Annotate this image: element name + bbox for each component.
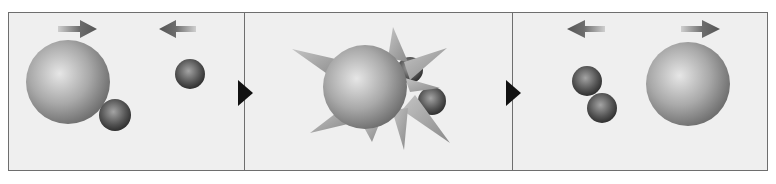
collision-diagram <box>0 0 776 184</box>
small-sphere <box>572 66 602 96</box>
small-sphere <box>175 59 205 89</box>
motion-arrow-right-icon <box>681 20 720 38</box>
panel-after <box>567 20 730 126</box>
panel-collision <box>292 27 450 150</box>
step-arrow-icon <box>506 80 521 106</box>
motion-arrow-left-icon <box>567 20 605 38</box>
motion-arrow-left-icon <box>159 20 196 38</box>
large-sphere <box>646 42 730 126</box>
small-sphere <box>587 93 617 123</box>
motion-arrow-right-icon <box>58 20 97 38</box>
large-sphere <box>323 45 407 129</box>
step-arrow-icon <box>238 80 253 106</box>
small-sphere <box>99 99 131 131</box>
large-sphere <box>26 40 110 124</box>
panel-before <box>26 20 205 131</box>
